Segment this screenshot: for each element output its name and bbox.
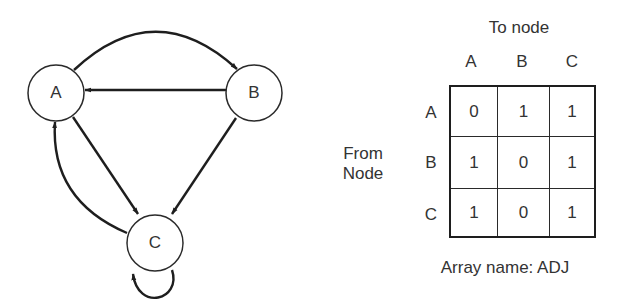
edge-a-to-b [74,32,237,70]
matrix-cell: 0 [498,189,550,236]
side-label-from: From [343,144,383,164]
matrix-cell: 0 [498,137,550,189]
node-c-label: C [149,233,161,253]
row-header-c: C [425,205,437,225]
adjacency-matrix: 0 1 1 1 0 1 1 0 1 [449,85,596,238]
node-b-label: B [248,83,259,103]
matrix-cell: 1 [451,137,498,189]
edge-c-to-a [55,122,127,233]
side-label-node: Node [343,164,384,184]
edge-b-to-c [172,118,236,214]
column-header-b: B [516,52,527,72]
directed-graph [0,0,300,307]
matrix-cell: 1 [550,189,594,236]
matrix-cell: 1 [451,189,498,236]
matrix-title: To node [489,18,550,38]
row-header-b: B [425,153,436,173]
matrix-cell: 0 [451,87,498,137]
matrix-cell: 1 [498,87,550,137]
matrix-cell: 1 [550,87,594,137]
edge-c-self-loop [133,270,173,298]
matrix-cell: 1 [550,137,594,189]
array-name-caption: Array name: ADJ [441,258,570,278]
node-a-label: A [50,83,61,103]
column-header-c: C [566,52,578,72]
edge-a-to-c [73,117,138,214]
row-header-a: A [425,103,436,123]
column-header-a: A [465,52,476,72]
